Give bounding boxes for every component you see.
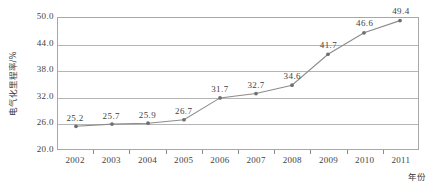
data-point-label: 32.7 <box>247 80 264 90</box>
x-axis-tickmark <box>166 150 167 154</box>
series-markers <box>74 19 402 128</box>
data-point-marker <box>326 52 330 56</box>
x-axis-tickmark <box>238 150 239 154</box>
data-point-label: 25.7 <box>103 111 120 121</box>
y-axis-tick-label: 20.0 <box>22 144 54 154</box>
y-axis-tick-label: 26.0 <box>22 117 54 127</box>
data-point-label: 41.7 <box>320 40 337 50</box>
y-axis-tick-label: 44.0 <box>22 38 54 48</box>
data-point-marker <box>182 118 186 122</box>
x-axis-tickmark <box>383 150 384 154</box>
x-axis-tickmark <box>129 150 130 154</box>
y-axis-tick-label: 32.0 <box>22 91 54 101</box>
data-point-marker <box>110 122 114 126</box>
data-point-marker <box>254 92 258 96</box>
line-chart: 电气化里程率/% 20.026.032.038.044.050.0 25.225… <box>0 0 438 196</box>
data-point-label: 25.9 <box>139 110 156 120</box>
data-point-label: 26.7 <box>175 106 192 116</box>
series-polyline <box>76 21 400 127</box>
series-line-electrification-rate <box>58 18 418 149</box>
x-axis-tick-label: 2011 <box>379 155 423 165</box>
data-point-marker <box>218 96 222 100</box>
x-axis-tickmark <box>274 150 275 154</box>
y-axis-tick-label: 38.0 <box>22 64 54 74</box>
x-axis-tickmark <box>93 150 94 154</box>
x-axis-tickmark <box>310 150 311 154</box>
x-axis-title: 年份 <box>408 170 426 182</box>
data-point-marker <box>74 124 78 128</box>
data-point-label: 34.6 <box>284 71 301 81</box>
y-axis-tick-label: 50.0 <box>22 11 54 21</box>
data-point-marker <box>146 121 150 125</box>
plot-area <box>57 17 419 150</box>
data-point-marker <box>290 83 294 87</box>
data-point-marker <box>362 31 366 35</box>
x-axis-tickmark <box>202 150 203 154</box>
data-point-label: 46.6 <box>356 18 373 28</box>
data-point-marker <box>398 19 402 23</box>
x-axis-tickmark <box>347 150 348 154</box>
data-point-label: 31.7 <box>211 84 228 94</box>
data-point-label: 25.2 <box>66 113 83 123</box>
y-axis-tick-labels: 20.026.032.038.044.050.0 <box>16 0 54 196</box>
data-point-label: 49.4 <box>392 6 409 16</box>
